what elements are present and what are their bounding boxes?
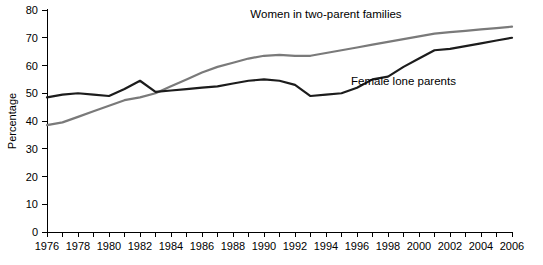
y-tick-label: 0	[32, 226, 38, 238]
x-tick-label: 2000	[407, 240, 431, 252]
line-chart: 01020304050607080 1976197819801982198419…	[0, 0, 543, 265]
x-tick-label: 1998	[376, 240, 400, 252]
series-line-1	[47, 38, 512, 98]
x-axis: 1976197819801982198419861988199019921994…	[35, 232, 524, 252]
x-tick-label: 1986	[190, 240, 214, 252]
chart-figure: 01020304050607080 1976197819801982198419…	[0, 0, 543, 265]
x-tick-label: 1982	[128, 240, 152, 252]
series-label-1: Female lone parents	[351, 75, 456, 87]
y-tick-label: 30	[26, 143, 38, 155]
x-tick-label: 2004	[469, 240, 493, 252]
x-tick-label: 1984	[159, 240, 183, 252]
series-label-0: Women in two-parent families	[250, 8, 402, 20]
y-tick-label: 20	[26, 171, 38, 183]
x-tick-label: 1992	[283, 240, 307, 252]
y-tick-label: 70	[26, 32, 38, 44]
x-tick-label: 1978	[66, 240, 90, 252]
x-tick-label: 1996	[345, 240, 369, 252]
x-tick-label: 2002	[438, 240, 462, 252]
y-tick-label: 80	[26, 4, 38, 16]
x-tick-label: 1980	[97, 240, 121, 252]
y-tick-label: 60	[26, 60, 38, 72]
y-tick-label: 40	[26, 115, 38, 127]
y-axis: 01020304050607080	[26, 4, 47, 238]
x-tick-label: 1988	[221, 240, 245, 252]
y-tick-label: 10	[26, 198, 38, 210]
x-tick-label: 2006	[500, 240, 524, 252]
x-tick-label: 1990	[252, 240, 276, 252]
y-axis-title: Percentage	[6, 93, 18, 149]
x-tick-label: 1994	[314, 240, 338, 252]
y-tick-label: 50	[26, 87, 38, 99]
x-tick-label: 1976	[35, 240, 59, 252]
